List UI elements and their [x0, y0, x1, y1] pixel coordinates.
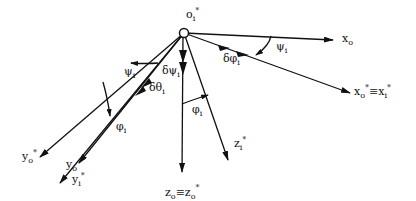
- delta-psi-arrow-icon: [179, 50, 187, 63]
- delta-phi-arrow-icon: [218, 45, 230, 51]
- label-y-o-star: yo*: [21, 148, 37, 165]
- diagram-svg: oi* xo xo*≡xi* yo* yo yi* zo≡zo* zi* ψi …: [0, 0, 416, 201]
- label-x-o: xo: [342, 32, 353, 47]
- euler-angle-diagram: oi* xo xo*≡xi* yo* yo yi* zo≡zo* zi* ψi …: [0, 0, 416, 201]
- label-delta-theta-i: δθi: [149, 81, 165, 96]
- psi-arc-right: [256, 36, 271, 55]
- label-psi-i-right: ψi: [276, 40, 288, 55]
- label-phi-i-left: φi: [116, 120, 127, 135]
- label-z-o-equiv-z-o-star: zo≡zo*: [165, 183, 199, 201]
- label-z-i-star: zi*: [234, 135, 246, 152]
- label-y-i-star: yi*: [71, 171, 85, 188]
- delta-psi-arrow2-icon: [179, 62, 187, 75]
- axis-x-o: [184, 33, 333, 40]
- origin-label: oi*: [186, 6, 199, 23]
- label-x-o-star-equiv-x-i-star: xo*≡xi*: [354, 83, 391, 100]
- axis-x-o-star: [184, 33, 350, 93]
- axis-y-i-star: [60, 33, 184, 183]
- label-phi-i-right: φi: [192, 103, 203, 118]
- axis-z-i-star: [184, 33, 228, 160]
- label-psi-i-left: ψi: [124, 65, 136, 80]
- label-delta-psi-i: δψi: [162, 64, 180, 79]
- phi-arc-left: [103, 82, 110, 116]
- origin-point: [180, 29, 189, 38]
- label-y-o: yo: [65, 158, 77, 173]
- psi-arc-left: [131, 63, 158, 64]
